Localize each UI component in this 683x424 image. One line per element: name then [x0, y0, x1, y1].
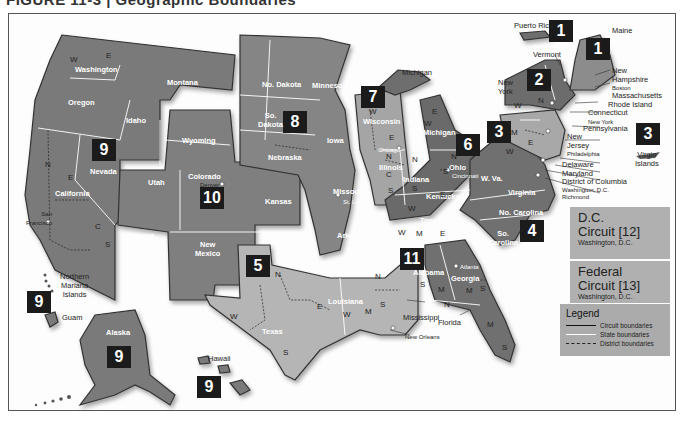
state-label-wisconsin: Wisconsin — [363, 117, 400, 126]
district-letter: M — [487, 320, 494, 329]
state-label-idaho: Idaho — [126, 116, 146, 125]
dc-circuit-box: D.C. Circuit [12] Washington, D.C. — [570, 207, 670, 259]
label-district-of-columbia: District of Columbia — [562, 177, 627, 186]
state-label-kansas: Kansas — [265, 197, 292, 206]
state-label-so-carolina: So. Carolina — [488, 229, 518, 247]
circuit-badge-9-alaska: 9 — [107, 346, 131, 368]
legend-label: Circuit boundaries — [600, 322, 652, 329]
district-letter: E — [432, 107, 437, 116]
label-new-orleans: New Orleans — [405, 333, 440, 342]
district-letter: E — [68, 173, 73, 182]
district-letter: C — [386, 170, 392, 179]
state-label-georgia: Georgia — [451, 274, 479, 283]
state-label-virginia: Virginia — [508, 188, 535, 197]
label-pennsylvania: Pennsylvania — [583, 124, 628, 133]
dc-circuit-title: D.C. Circuit [12] — [578, 211, 662, 239]
legend-item-state: State boundaries — [566, 330, 664, 339]
district-letter: W — [398, 228, 406, 237]
state-label-michigan: Michigan — [423, 128, 456, 137]
label-philadelphia: Philadelphia — [567, 150, 600, 159]
state-label-missouri: Missouri — [333, 187, 364, 196]
district-letter: S — [388, 186, 393, 195]
federal-circuit-box: Federal Circuit [13] Washington, D.C. — [570, 261, 670, 303]
label-san-francisco: San Francisco — [26, 210, 52, 228]
district-letter: S — [502, 343, 507, 352]
dc-circuit-location: Washington, D.C. — [578, 239, 662, 246]
district-letter: N — [412, 155, 418, 164]
district-letter: S — [420, 280, 425, 289]
label-massachusetts: Massachusetts — [612, 91, 662, 100]
legend-title: Legend — [566, 308, 664, 319]
state-line-swatch — [566, 334, 596, 335]
label-connecticut: Connecticut — [588, 108, 628, 117]
label-new-york: New York — [498, 78, 513, 96]
district-letter: N — [444, 300, 450, 309]
circuit-badge-3-pennsylvania: 3 — [487, 121, 511, 143]
circuit-badge-9-mariana: 9 — [27, 291, 51, 313]
circuit-badge-9-hawaii: 9 — [197, 376, 221, 398]
aleutian-islands-dots — [35, 395, 71, 406]
district-letter: M — [466, 286, 473, 295]
district-letter: W — [514, 101, 522, 110]
district-letter: W — [408, 204, 416, 213]
circuit-badge-8: 8 — [283, 111, 307, 133]
district-letter: N — [45, 160, 51, 169]
district-letter: N — [275, 270, 281, 279]
label-maine: Maine — [612, 26, 632, 35]
circuit-badge-4: 4 — [520, 220, 544, 242]
district-letter: M — [416, 229, 423, 238]
label-puerto-rico: Puerto Rico — [514, 21, 553, 30]
legend-label: District boundaries — [600, 340, 654, 347]
state-label-utah: Utah — [148, 178, 165, 187]
district-letter: N — [451, 152, 457, 161]
circuit-badge-2: 2 — [527, 69, 551, 91]
label-northern-mariana-islands: Northern Mariana Islands — [60, 272, 89, 299]
district-letter: S — [443, 167, 448, 176]
district-letter: S — [283, 348, 288, 357]
federal-circuit-location: Washington, D.C. — [578, 293, 662, 300]
state-label-alaska: Alaska — [106, 328, 130, 337]
district-letter: E — [389, 133, 394, 142]
label-hawaii: Hawaii — [208, 354, 231, 363]
district-letter: W — [70, 55, 78, 64]
state-label-minnesota: Minnesota — [312, 81, 349, 90]
label-vermont: Vermont — [533, 50, 561, 59]
district-letter: N — [386, 152, 392, 161]
state-label-colorado: Colorado — [188, 172, 221, 181]
hawaii-shape — [230, 380, 250, 395]
district-letter: E — [440, 190, 445, 199]
mariana-islands-dots — [44, 274, 54, 293]
label-richmond: Richmond — [562, 193, 589, 202]
label-new-hampshire: New Hampshire — [612, 66, 648, 84]
state-label-tennessee: Tennessee — [420, 216, 458, 225]
state-label-montana: Montana — [167, 78, 198, 87]
district-letter: M — [365, 307, 372, 316]
district-letter: E — [528, 138, 533, 147]
district-letter: M — [511, 128, 518, 137]
state-label-so-dakota: So. Dakota — [258, 111, 283, 129]
state-label-iowa: Iowa — [327, 136, 344, 145]
district-letter: W — [343, 310, 351, 319]
district-letter: W — [230, 312, 238, 321]
state-label-louisiana: Louisiana — [328, 297, 363, 306]
federal-circuit-title: Federal Circuit [13] — [578, 265, 662, 293]
district-letter: E — [440, 229, 445, 238]
label-cincinnati: Cincinnati — [452, 172, 478, 181]
district-letter: W — [424, 119, 432, 128]
district-letter: N — [375, 272, 381, 281]
state-label-new-mexico: New Mexico — [195, 240, 220, 258]
state-label-california: California — [55, 189, 90, 198]
district-letter: W — [506, 147, 514, 156]
circuit-line-swatch — [566, 325, 596, 326]
state-label-w-va: W. Va. — [481, 174, 503, 183]
state-label-indiana: Indiana — [403, 175, 429, 184]
puerto-rico-shape — [520, 31, 550, 40]
label-delaware: Delaware — [562, 160, 594, 169]
state-label-oregon: Oregon — [68, 98, 95, 107]
state-label-texas: Texas — [262, 327, 283, 336]
district-letter: M — [438, 285, 445, 294]
circuit-badge-6: 6 — [456, 134, 480, 156]
district-letter: S — [380, 300, 385, 309]
state-label-oklahoma: Oklahoma — [275, 238, 311, 247]
label-mississippi: Mississippi — [403, 313, 439, 322]
